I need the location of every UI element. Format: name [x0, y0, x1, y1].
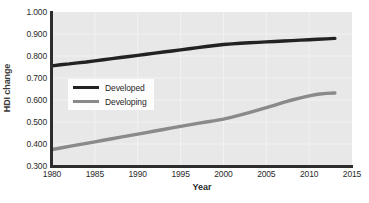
x-tick-label: 1990	[129, 169, 147, 179]
x-tick-label: 2000	[214, 169, 232, 179]
x-tick-label: 2010	[300, 169, 318, 179]
x-tick-label: 2005	[257, 169, 275, 179]
chart-legend: DevelopedDeveloping	[68, 79, 154, 110]
legend-swatch-icon	[73, 86, 99, 90]
y-tick-label: 0.900	[26, 29, 47, 39]
x-tick-label: 1985	[86, 169, 104, 179]
y-axis-tick-labels: 0.3000.4000.5000.6000.7000.8000.9001.000	[12, 12, 50, 166]
x-tick-label: 1980	[43, 169, 61, 179]
y-axis-spine	[50, 11, 53, 168]
x-tick-label: 1995	[171, 169, 189, 179]
y-tick-label: 0.800	[26, 51, 47, 61]
legend-swatch-icon	[73, 100, 99, 104]
x-axis-spine	[50, 165, 353, 168]
y-tick-label: 1.000	[26, 7, 47, 17]
y-tick-label: 0.400	[26, 139, 47, 149]
legend-item[interactable]: Developing	[73, 96, 147, 107]
x-tick-label: 2015	[343, 169, 361, 179]
legend-label: Developing	[105, 97, 147, 107]
y-tick-label: 0.500	[26, 117, 47, 127]
y-axis-title-text: HDI change	[2, 63, 12, 112]
legend-item[interactable]: Developed	[73, 82, 147, 93]
chart-figure: HDI change 0.3000.4000.5000.6000.7000.80…	[0, 0, 369, 203]
y-tick-label: 0.700	[26, 73, 47, 83]
y-tick-label: 0.600	[26, 95, 47, 105]
legend-label: Developed	[105, 83, 145, 93]
x-axis-tick-labels: 19801985199019952000200520102015	[52, 169, 352, 182]
x-axis-title: Year	[52, 182, 352, 192]
